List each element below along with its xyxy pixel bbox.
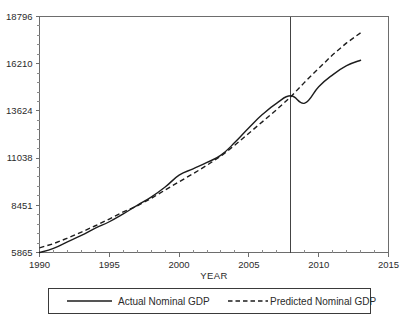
chart-canvas: 5865845111038136241621018796 19901995200… <box>0 0 404 320</box>
y-tick-label: 8451 <box>11 200 32 211</box>
x-tick-label: 2015 <box>378 259 399 270</box>
chart-legend: Actual Nominal GDP Predicted Nominal GDP <box>49 289 377 314</box>
series-line-predicted <box>40 33 361 248</box>
y-tick-label: 16210 <box>6 58 32 69</box>
x-tick-label: 1990 <box>29 259 50 270</box>
y-axis: 5865845111038136241621018796 <box>6 11 39 258</box>
series-layer <box>40 33 361 253</box>
legend-label-actual: Actual Nominal GDP <box>118 296 210 307</box>
plot-frame <box>40 17 389 253</box>
y-tick-label: 5865 <box>11 247 32 258</box>
y-tick-label: 11038 <box>7 152 33 163</box>
y-tick-label: 13624 <box>6 105 32 116</box>
series-line-actual <box>40 60 361 252</box>
x-tick-label: 2000 <box>169 259 190 270</box>
y-tick-label: 18796 <box>6 11 32 22</box>
legend-label-predicted: Predicted Nominal GDP <box>270 296 376 307</box>
gdp-line-chart: 5865845111038136241621018796 19901995200… <box>0 0 404 320</box>
plot-border <box>40 17 389 253</box>
x-tick-label: 2005 <box>238 259 259 270</box>
x-axis-title: YEAR <box>200 270 227 281</box>
x-tick-label: 2010 <box>308 259 329 270</box>
x-tick-label: 1995 <box>99 259 120 270</box>
